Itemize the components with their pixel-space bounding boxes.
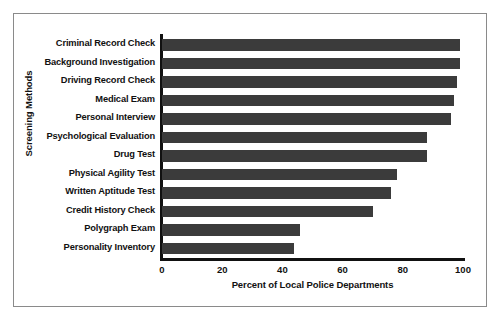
x-tick-label: 40	[277, 264, 288, 275]
x-tick-label: 60	[337, 264, 348, 275]
bar	[162, 95, 454, 107]
bar	[162, 169, 397, 181]
bar-row: Polygraph Exam	[162, 221, 463, 240]
x-axis-line	[160, 258, 465, 261]
category-label: Medical Exam	[95, 92, 155, 106]
x-tick-label: 20	[217, 264, 228, 275]
category-label: Physical Agility Test	[69, 166, 155, 180]
bar	[162, 187, 391, 199]
bar	[162, 58, 460, 70]
bar-row: Personal Interview	[162, 110, 463, 129]
x-tick-label: 0	[159, 264, 164, 275]
category-label: Personal Interview	[76, 110, 155, 124]
bar	[162, 206, 373, 218]
chart-figure: Screening Methods Criminal Record CheckB…	[0, 0, 501, 322]
bar	[162, 243, 294, 255]
y-axis-title: Screening Methods	[23, 44, 34, 184]
category-label: Personality Inventory	[64, 240, 155, 254]
plot-area: Criminal Record CheckBackground Investig…	[162, 36, 463, 258]
bar-row: Medical Exam	[162, 92, 463, 111]
category-label: Drug Test	[114, 147, 155, 161]
bar-row: Psychological Evaluation	[162, 129, 463, 148]
bar-row: Physical Agility Test	[162, 166, 463, 185]
bar	[162, 39, 460, 51]
bar	[162, 224, 300, 236]
category-label: Credit History Check	[66, 203, 155, 217]
bar	[162, 76, 457, 88]
category-label: Written Aptitude Test	[65, 184, 155, 198]
bar-row: Written Aptitude Test	[162, 184, 463, 203]
category-label: Criminal Record Check	[56, 36, 155, 50]
category-label: Polygraph Exam	[84, 221, 155, 235]
category-label: Background Investigation	[44, 55, 155, 69]
bar	[162, 113, 451, 125]
x-tick-label: 100	[455, 264, 471, 275]
category-label: Driving Record Check	[61, 73, 155, 87]
bar-row: Background Investigation	[162, 55, 463, 74]
bar-row: Criminal Record Check	[162, 36, 463, 55]
bar-row: Credit History Check	[162, 203, 463, 222]
x-tick-label: 80	[398, 264, 409, 275]
bar	[162, 150, 427, 162]
bar-row: Drug Test	[162, 147, 463, 166]
bar	[162, 132, 427, 144]
bar-row: Driving Record Check	[162, 73, 463, 92]
category-label: Psychological Evaluation	[46, 129, 155, 143]
x-axis-title: Percent of Local Police Departments	[162, 279, 463, 290]
bar-row: Personality Inventory	[162, 240, 463, 259]
